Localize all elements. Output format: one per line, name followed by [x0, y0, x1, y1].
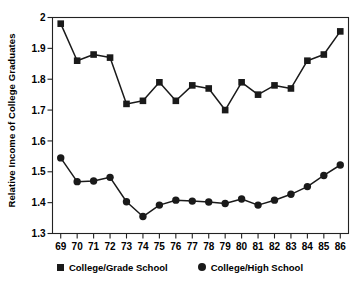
legend-label: College/Grade School — [69, 262, 168, 273]
data-point-marker — [73, 178, 80, 185]
legend-item-college-grade-school: College/Grade School — [57, 262, 168, 273]
legend-item-college-high-school: College/High School — [198, 262, 303, 273]
data-point-marker — [222, 107, 229, 114]
data-point-marker — [221, 200, 228, 207]
data-point-marker — [172, 196, 179, 203]
y-axis-tick-label: 1.4 — [32, 197, 46, 208]
series-line — [61, 24, 341, 110]
data-point-marker — [189, 197, 196, 204]
data-point-marker — [123, 101, 130, 108]
data-point-marker — [74, 57, 81, 64]
x-axis-tick-label: 83 — [285, 241, 297, 251]
x-axis-tick-label: 79 — [220, 241, 232, 251]
x-axis-tick-label: 73 — [121, 241, 133, 251]
data-point-marker — [107, 54, 114, 61]
plot-area: 1.31.41.51.61.71.81.92697071727374757677… — [0, 0, 360, 250]
x-axis-tick-label: 75 — [154, 241, 166, 251]
data-point-marker — [57, 154, 64, 161]
y-axis-tick-label: 1.8 — [32, 74, 46, 85]
data-point-marker — [337, 28, 344, 35]
data-point-marker — [139, 213, 146, 220]
data-point-marker — [238, 79, 245, 86]
x-axis-tick-label: 81 — [252, 241, 264, 251]
data-point-marker — [189, 82, 196, 89]
data-point-marker — [271, 196, 278, 203]
data-point-marker — [205, 198, 212, 205]
data-point-marker — [205, 85, 212, 92]
x-axis-tick-label: 84 — [302, 241, 314, 251]
data-point-marker — [304, 183, 311, 190]
x-axis-tick-label: 69 — [55, 241, 67, 251]
data-point-marker — [106, 174, 113, 181]
data-point-marker — [287, 191, 294, 198]
square-marker-icon — [57, 264, 64, 271]
data-point-marker — [90, 177, 97, 184]
circle-marker-icon — [198, 263, 206, 271]
chart-figure: Relative Income of College Graduates 1.3… — [0, 0, 360, 285]
y-axis-tick-label: 1.7 — [32, 105, 46, 116]
x-axis-tick-label: 76 — [170, 241, 182, 251]
y-axis-tick-label: 1.9 — [32, 43, 46, 54]
data-point-marker — [304, 57, 311, 64]
y-axis-tick-label: 1.3 — [32, 228, 46, 239]
data-point-marker — [255, 91, 262, 98]
data-point-marker — [254, 201, 261, 208]
data-point-marker — [140, 98, 147, 105]
y-axis-tick-label: 1.5 — [32, 166, 46, 177]
data-point-marker — [156, 201, 163, 208]
data-point-marker — [57, 20, 64, 27]
x-axis-tick-label: 86 — [335, 241, 347, 251]
x-axis-tick-label: 78 — [203, 241, 215, 251]
data-point-marker — [288, 85, 295, 92]
data-point-marker — [320, 172, 327, 179]
data-point-marker — [271, 82, 278, 89]
chart-legend: College/Grade School College/High School — [0, 252, 360, 282]
data-point-marker — [123, 198, 130, 205]
y-axis-tick-label: 1.6 — [32, 136, 46, 147]
x-axis-tick-label: 80 — [236, 241, 248, 251]
x-axis-tick-label: 77 — [187, 241, 199, 251]
data-point-marker — [321, 51, 328, 58]
y-axis-tick-label: 2 — [40, 12, 46, 23]
data-point-marker — [238, 195, 245, 202]
data-point-marker — [156, 79, 163, 86]
data-point-marker — [90, 51, 97, 58]
x-axis-tick-label: 74 — [137, 241, 149, 251]
x-axis-tick-label: 71 — [88, 241, 100, 251]
series-line — [61, 158, 341, 217]
data-point-marker — [173, 98, 180, 105]
x-axis-tick-label: 72 — [104, 241, 116, 251]
data-point-marker — [337, 161, 344, 168]
x-axis-tick-label: 70 — [72, 241, 84, 251]
x-axis-tick-label: 85 — [318, 241, 330, 251]
x-axis-tick-label: 82 — [269, 241, 281, 251]
chart-svg: 1.31.41.51.61.71.81.92697071727374757677… — [0, 0, 360, 250]
legend-label: College/High School — [211, 262, 303, 273]
